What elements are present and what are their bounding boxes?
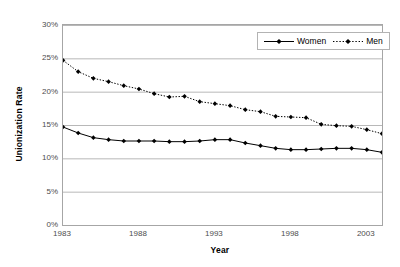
y-tick-label: 15% bbox=[18, 120, 58, 129]
data-point bbox=[273, 146, 278, 151]
y-tick-label: 20% bbox=[18, 86, 58, 95]
data-point bbox=[197, 139, 202, 144]
data-point bbox=[380, 131, 382, 136]
data-point bbox=[243, 141, 248, 146]
chart-legend: WomenMen bbox=[257, 32, 390, 50]
data-point bbox=[228, 137, 233, 142]
legend-entry-women: Women bbox=[264, 36, 326, 46]
data-point bbox=[289, 115, 294, 120]
data-series-layer bbox=[63, 58, 382, 155]
plot-svg bbox=[63, 25, 382, 225]
data-point bbox=[228, 103, 233, 108]
y-tick-label: 25% bbox=[18, 53, 58, 62]
data-point bbox=[137, 139, 142, 144]
data-point bbox=[319, 147, 324, 152]
data-point bbox=[106, 79, 111, 84]
x-tick-label: 1993 bbox=[194, 229, 234, 238]
data-point bbox=[182, 139, 187, 144]
legend-label: Men bbox=[366, 36, 383, 46]
data-point bbox=[334, 123, 339, 128]
plot-area bbox=[62, 24, 383, 226]
data-point bbox=[76, 131, 81, 136]
y-tick-label: 5% bbox=[18, 186, 58, 195]
x-tick-label: 1983 bbox=[42, 229, 82, 238]
y-tick-label: 10% bbox=[18, 153, 58, 162]
data-point bbox=[182, 94, 187, 99]
y-axis-tick-labels: 0%5%10%15%20%25%30% bbox=[16, 24, 58, 224]
data-point bbox=[76, 69, 81, 74]
data-point bbox=[243, 107, 248, 112]
legend-swatch-diamond-solid-icon bbox=[264, 37, 294, 46]
y-tick-label: 30% bbox=[18, 20, 58, 29]
legend-label: Women bbox=[297, 36, 326, 46]
data-point bbox=[273, 114, 278, 119]
data-point bbox=[121, 139, 126, 144]
data-point bbox=[121, 83, 126, 88]
data-point bbox=[91, 76, 96, 81]
x-tick-label: 2003 bbox=[346, 229, 386, 238]
x-tick-label: 1988 bbox=[118, 229, 158, 238]
data-point bbox=[152, 139, 157, 144]
data-point bbox=[319, 122, 324, 127]
data-point bbox=[258, 109, 263, 114]
data-point bbox=[304, 115, 309, 120]
y-tick-label: 0% bbox=[18, 220, 58, 229]
data-point bbox=[213, 137, 218, 142]
unionization-rate-line-chart: Unionization Rate 0%5%10%15%20%25%30% 19… bbox=[0, 0, 400, 267]
data-point bbox=[167, 95, 172, 100]
x-tick-label: 1998 bbox=[270, 229, 310, 238]
data-point bbox=[106, 137, 111, 142]
legend-swatch-diamond-dotted-icon bbox=[333, 37, 363, 46]
data-point bbox=[365, 127, 370, 132]
series-line bbox=[63, 60, 382, 133]
data-point bbox=[365, 147, 370, 152]
data-point bbox=[258, 143, 263, 148]
data-point bbox=[137, 87, 142, 92]
data-point bbox=[197, 99, 202, 104]
data-point bbox=[289, 147, 294, 152]
data-point bbox=[349, 146, 354, 151]
data-point bbox=[349, 124, 354, 129]
data-point bbox=[304, 147, 309, 152]
data-point bbox=[213, 101, 218, 106]
data-point bbox=[167, 139, 172, 144]
data-point bbox=[380, 150, 382, 155]
x-axis-title: Year bbox=[55, 245, 385, 255]
series-men bbox=[63, 58, 382, 136]
data-point bbox=[91, 135, 96, 140]
x-axis-tick-labels: 19831988199319982003 bbox=[62, 229, 381, 243]
data-point bbox=[334, 146, 339, 151]
series-women bbox=[63, 125, 382, 155]
legend-entry-men: Men bbox=[333, 36, 383, 46]
